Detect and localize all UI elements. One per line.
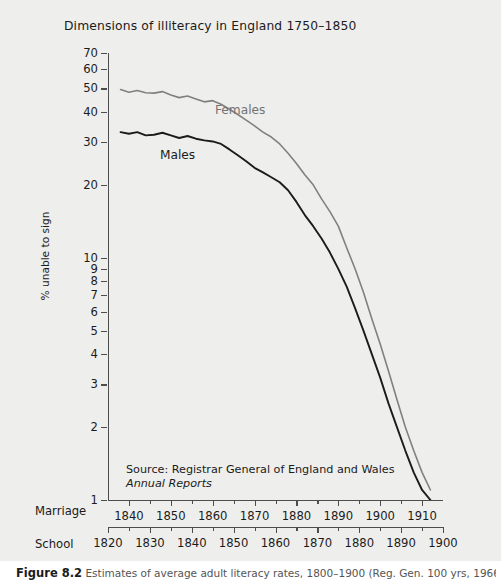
y-tick-mark <box>101 69 107 70</box>
source-note: Source: Registrar General of England and… <box>126 463 395 490</box>
figure-caption-text: Estimates of average adult literacy rate… <box>85 567 496 579</box>
series-label-males: Males <box>160 148 195 162</box>
y-tick-mark <box>101 384 107 385</box>
x-tick-mark <box>129 500 130 506</box>
y-tick-mark <box>101 354 107 355</box>
y-tick-mark <box>101 53 107 54</box>
series-line-males <box>121 132 431 500</box>
x-tick-mark <box>317 500 318 504</box>
x-tick-mark <box>296 500 297 506</box>
x-tick-mark <box>234 527 235 533</box>
x-tick-mark <box>276 527 277 533</box>
x-tick-mark <box>401 500 402 504</box>
y-tick-label: 20 <box>58 178 98 192</box>
y-tick-label: 8 <box>58 274 98 288</box>
y-tick-label: 3 <box>58 377 98 391</box>
school-axis-name: School <box>35 537 74 551</box>
plot-area <box>108 53 443 500</box>
figure-caption-label: Figure 8.2 <box>16 566 82 580</box>
x-tick-mark <box>401 527 402 533</box>
x-tick-mark <box>234 500 235 504</box>
marriage-axis-name: Marriage <box>35 504 86 518</box>
y-tick-label: 6 <box>58 305 98 319</box>
x-tick-mark <box>171 500 172 506</box>
y-tick-mark <box>101 281 107 282</box>
series-label-females: Females <box>215 103 265 117</box>
y-tick-label: 60 <box>58 62 98 76</box>
x-tick-label: 1900 <box>418 536 468 550</box>
y-tick-mark <box>101 88 107 89</box>
y-axis-title: % unable to sign <box>39 206 51 306</box>
x-tick-mark <box>296 527 297 531</box>
x-tick-mark <box>255 527 256 531</box>
y-tick-mark <box>101 112 107 113</box>
y-tick-label: 4 <box>58 347 98 361</box>
x-tick-mark <box>150 500 151 504</box>
x-tick-mark <box>380 527 381 531</box>
chart-title: Dimensions of illiteracy in England 1750… <box>64 19 356 33</box>
x-tick-mark <box>171 527 172 531</box>
x-tick-mark <box>359 527 360 533</box>
y-axis-tick-labels: 70605040302010987654321 <box>54 0 98 582</box>
y-tick-mark <box>101 258 107 259</box>
x-tick-mark <box>317 527 318 533</box>
x-tick-mark <box>108 527 109 533</box>
x-tick-mark <box>213 527 214 531</box>
x-tick-label: 1910 <box>397 509 447 523</box>
y-tick-mark <box>101 500 107 501</box>
y-tick-mark <box>101 142 107 143</box>
y-tick-label: 7 <box>58 288 98 302</box>
x-tick-mark <box>192 527 193 533</box>
x-tick-mark <box>129 527 130 531</box>
x-tick-mark <box>443 527 444 533</box>
y-tick-label: 30 <box>58 135 98 149</box>
y-tick-mark <box>101 295 107 296</box>
y-tick-label: 2 <box>58 420 98 434</box>
y-tick-label: 50 <box>58 81 98 95</box>
x-tick-mark <box>338 500 339 506</box>
x-tick-mark <box>380 500 381 506</box>
figure-caption: Figure 8.2 Estimates of average adult li… <box>16 566 496 580</box>
source-line-1: Source: Registrar General of England and… <box>126 463 395 477</box>
y-tick-mark <box>101 312 107 313</box>
y-tick-mark <box>101 185 107 186</box>
y-tick-label: 40 <box>58 105 98 119</box>
figure-panel: Dimensions of illiteracy in England 1750… <box>0 0 501 561</box>
y-tick-mark <box>101 269 107 270</box>
source-line-2: Annual Reports <box>126 477 395 491</box>
y-tick-label: 70 <box>58 46 98 60</box>
x-tick-mark <box>213 500 214 506</box>
x-tick-mark <box>338 527 339 531</box>
x-tick-mark <box>255 500 256 506</box>
x-tick-mark <box>359 500 360 504</box>
y-tick-label: 5 <box>58 324 98 338</box>
x-tick-mark <box>150 527 151 533</box>
y-tick-mark <box>101 331 107 332</box>
x-tick-mark <box>192 500 193 504</box>
x-tick-mark <box>276 500 277 504</box>
x-tick-mark <box>422 527 423 531</box>
y-tick-mark <box>101 427 107 428</box>
x-tick-mark <box>422 500 423 506</box>
